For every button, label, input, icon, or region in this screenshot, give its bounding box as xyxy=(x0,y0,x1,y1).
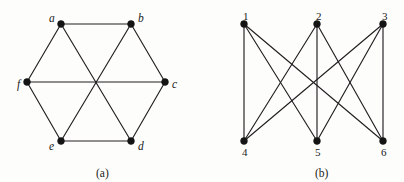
graph-vertex-6 xyxy=(380,138,387,145)
graph-vertex-f xyxy=(24,79,31,86)
vertex-label-2: 2 xyxy=(316,11,322,22)
vertex-label-d: d xyxy=(138,141,144,153)
graph-vertex-c xyxy=(162,79,169,86)
graph-vertex-5 xyxy=(314,138,321,145)
vertex-label-c: c xyxy=(172,79,177,91)
graph-edge xyxy=(131,82,165,141)
graph-vertex-b xyxy=(128,21,135,28)
graph-vertex-e xyxy=(58,138,65,145)
vertex-label-a: a xyxy=(49,13,55,25)
vertex-label-b: b xyxy=(138,13,144,25)
panel-b-edges xyxy=(244,24,383,141)
graph-canvas xyxy=(0,0,404,182)
graph-vertex-4 xyxy=(241,138,248,145)
graph-edge xyxy=(27,82,61,141)
vertex-label-e: e xyxy=(49,141,54,153)
panel-a-edges xyxy=(27,24,165,141)
panel-a-caption: (a) xyxy=(96,168,109,180)
graph-edge xyxy=(131,24,165,82)
graph-vertex-d xyxy=(128,138,135,145)
graph-edge xyxy=(27,24,61,82)
vertex-label-f: f xyxy=(17,79,20,91)
vertex-label-4: 4 xyxy=(242,147,248,158)
vertex-label-5: 5 xyxy=(315,147,321,158)
vertex-label-3: 3 xyxy=(382,11,388,22)
vertex-label-6: 6 xyxy=(381,147,387,158)
vertex-label-1: 1 xyxy=(243,11,249,22)
panel-b-caption: (b) xyxy=(315,168,328,180)
graph-vertex-a xyxy=(58,21,65,28)
graph-figure: abcdef(a)123456(b) xyxy=(0,0,404,182)
